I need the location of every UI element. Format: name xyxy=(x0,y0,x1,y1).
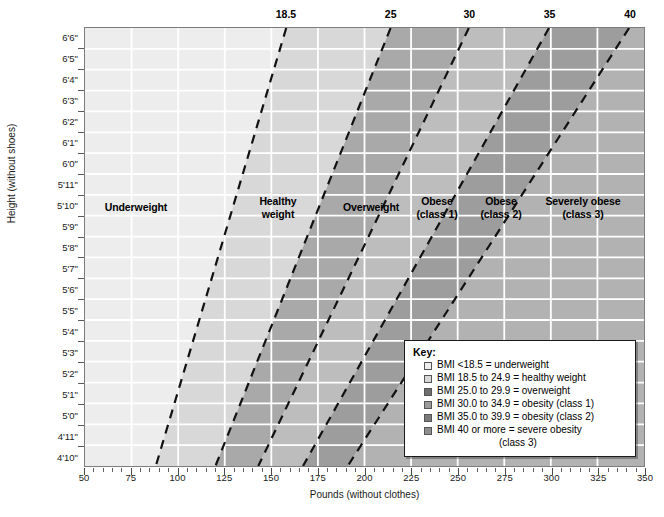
x-tick-minor xyxy=(149,468,150,472)
top-bmi-tick-18.5: 18.5 xyxy=(276,8,296,20)
y-tick-label: 6'2" xyxy=(62,116,78,127)
y-tick-label: 6'6" xyxy=(62,32,78,43)
x-tick-minor xyxy=(626,468,627,472)
legend-item-label-continued: (class 3) xyxy=(437,437,582,450)
x-tick-minor xyxy=(187,468,188,472)
y-tick-label: 6'0" xyxy=(62,158,78,169)
x-tick-minor xyxy=(580,468,581,472)
y-tick-label: 5'7" xyxy=(62,262,78,273)
x-tick-label: 350 xyxy=(637,472,653,483)
top-bmi-tick-25: 25 xyxy=(385,8,397,20)
x-tick-minor xyxy=(299,468,300,472)
legend-item: BMI 25.0 to 29.9 = overweight xyxy=(424,385,628,398)
legend-swatch xyxy=(424,427,432,435)
legend-swatch xyxy=(424,375,432,383)
y-tick-label: 5'4" xyxy=(62,325,78,336)
x-tick-label: 125 xyxy=(216,472,232,483)
x-tick-minor xyxy=(439,468,440,472)
x-tick-label: 250 xyxy=(450,472,466,483)
region-label-obese-class-2: Obese (class 2) xyxy=(480,195,521,220)
bmi-chart-figure: 18.525303540 6'6"6'5"6'4"6'3"6'2"6'1"6'0… xyxy=(0,0,664,517)
x-tick-minor xyxy=(336,468,337,472)
x-tick-minor xyxy=(486,468,487,472)
region-label-healthy-weight: Healthy weight xyxy=(259,195,296,220)
x-tick-label: 275 xyxy=(497,472,513,483)
x-tick-minor xyxy=(523,468,524,472)
legend-item-label: BMI 25.0 to 29.9 = overweight xyxy=(437,385,570,398)
legend-item-label: BMI 30.0 to 34.9 = obesity (class 1) xyxy=(437,398,594,411)
x-tick-minor xyxy=(608,468,609,472)
x-tick-label: 75 xyxy=(125,472,136,483)
region-label-severely-obese-class-3: Severely obese (class 3) xyxy=(545,195,620,220)
x-tick-label: 300 xyxy=(544,472,560,483)
x-tick-minor xyxy=(467,468,468,472)
legend-item-label: BMI 35.0 to 39.9 = obesity (class 2) xyxy=(437,411,594,424)
legend-swatch xyxy=(424,388,432,396)
x-tick-minor xyxy=(346,468,347,472)
x-tick-label: 175 xyxy=(310,472,326,483)
x-axis-title: Pounds (without clothes) xyxy=(84,489,645,500)
legend-item-label: BMI 40 or more = severe obesity(class 3) xyxy=(437,424,582,449)
x-tick-minor xyxy=(383,468,384,472)
legend-item-label: BMI <18.5 = underweight xyxy=(437,359,549,372)
legend-key: Key: BMI <18.5 = underweightBMI 18.5 to … xyxy=(404,340,636,457)
x-tick-minor xyxy=(374,468,375,472)
legend-item: BMI 30.0 to 34.9 = obesity (class 1) xyxy=(424,398,628,411)
y-tick-label: 5'10" xyxy=(57,200,78,211)
y-tick-label: 6'1" xyxy=(62,137,78,148)
x-tick-minor xyxy=(196,468,197,472)
y-tick-label: 4'11" xyxy=(58,430,78,441)
x-tick-minor xyxy=(514,468,515,472)
x-tick-minor xyxy=(280,468,281,472)
x-tick-minor xyxy=(477,468,478,472)
x-tick-minor xyxy=(393,468,394,472)
x-tick-label: 325 xyxy=(590,472,606,483)
x-tick-minor xyxy=(430,468,431,472)
y-tick-label: 5'3" xyxy=(62,346,78,357)
y-axis: 6'6"6'5"6'4"6'3"6'2"6'1"6'0"5'11"5'10"5'… xyxy=(0,0,78,517)
legend-swatch xyxy=(424,362,432,370)
x-tick-minor xyxy=(121,468,122,472)
legend-item: BMI 18.5 to 24.9 = healthy weight xyxy=(424,372,628,385)
x-tick-minor xyxy=(243,468,244,472)
x-tick-label: 100 xyxy=(170,472,186,483)
region-label-obese-class-1: Obese (class 1) xyxy=(416,195,457,220)
x-tick-label: 225 xyxy=(403,472,419,483)
top-bmi-tick-35: 35 xyxy=(544,8,556,20)
legend-item: BMI <18.5 = underweight xyxy=(424,359,628,372)
x-tick-minor xyxy=(570,468,571,472)
y-tick-label: 4'10" xyxy=(57,451,78,462)
y-tick-label: 5'2" xyxy=(62,367,78,378)
legend-swatch xyxy=(424,401,432,409)
legend-item-label: BMI 18.5 to 24.9 = healthy weight xyxy=(437,372,586,385)
legend-items: BMI <18.5 = underweightBMI 18.5 to 24.9 … xyxy=(412,359,628,449)
x-tick-minor xyxy=(103,468,104,472)
x-tick-minor xyxy=(140,468,141,472)
x-tick-minor xyxy=(327,468,328,472)
x-tick-minor xyxy=(561,468,562,472)
y-tick-label: 6'3" xyxy=(62,95,78,106)
y-tick-label: 6'4" xyxy=(62,74,78,85)
x-tick-minor xyxy=(533,468,534,472)
y-tick-label: 5'5" xyxy=(62,304,78,315)
y-axis-title: Height (without shoes) xyxy=(6,99,17,249)
legend-item: BMI 40 or more = severe obesity(class 3) xyxy=(424,424,628,449)
x-tick-minor xyxy=(290,468,291,472)
x-tick-label: 50 xyxy=(79,472,90,483)
y-tick-label: 5'6" xyxy=(62,283,78,294)
x-tick-minor xyxy=(206,468,207,472)
x-tick-minor xyxy=(93,468,94,472)
x-tick-label: 200 xyxy=(357,472,373,483)
x-tick-label: 150 xyxy=(263,472,279,483)
top-bmi-tick-30: 30 xyxy=(463,8,475,20)
x-tick-minor xyxy=(159,468,160,472)
x-tick-minor xyxy=(617,468,618,472)
x-tick-minor xyxy=(421,468,422,472)
y-tick-label: 5'11" xyxy=(58,179,78,190)
region-label-underweight: Underweight xyxy=(105,201,168,214)
legend-title: Key: xyxy=(413,346,628,358)
legend-swatch xyxy=(424,414,432,422)
y-tick-label: 6'5" xyxy=(62,53,78,64)
region-label-overweight: Overweight xyxy=(343,201,399,214)
x-tick-minor xyxy=(252,468,253,472)
